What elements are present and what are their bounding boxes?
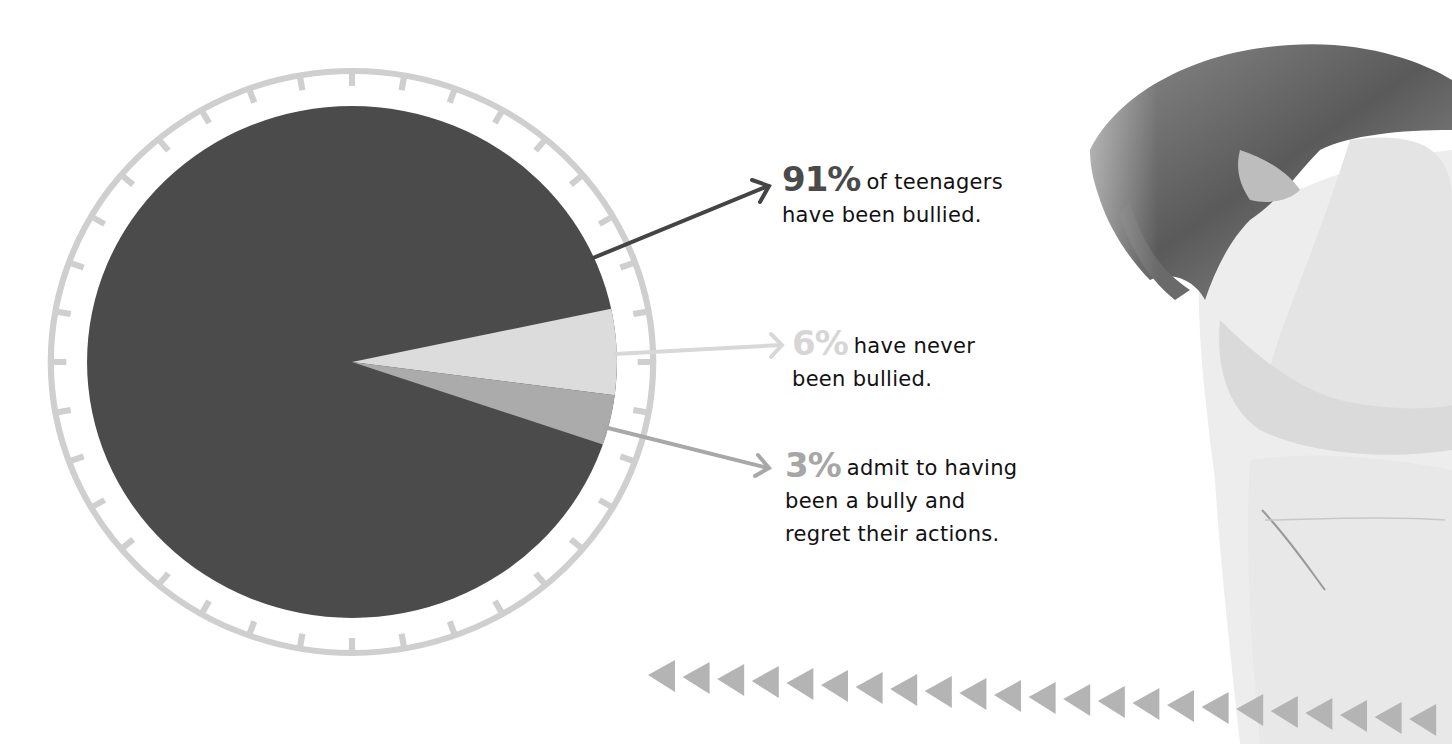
pie-chart [51, 71, 653, 653]
arrow-6 [615, 334, 782, 357]
annotation-3-line2: been a bully and [785, 489, 965, 513]
percent-3: 3% [785, 445, 841, 485]
arrow-3 [604, 427, 769, 476]
annotation-3-line1: admit to having [847, 456, 1018, 480]
annotation-6-line1: have never [854, 334, 975, 358]
annotation-6-line2: been bullied. [792, 367, 932, 391]
distressed-teen-photo [1000, 0, 1452, 744]
annotation-91: 91%of teenagers have been bullied. [782, 163, 1003, 232]
annotation-3: 3%admit to having been a bully and regre… [785, 449, 1017, 551]
arrow-91 [593, 180, 769, 258]
annotation-3-line3: regret their actions. [785, 522, 1000, 546]
annotation-91-line1: of teenagers [866, 170, 1003, 194]
annotation-91-line2: have been bullied. [782, 203, 982, 227]
percent-91: 91% [782, 159, 860, 199]
percent-6: 6% [792, 323, 848, 363]
annotation-6: 6%have never been bullied. [792, 327, 975, 396]
infographic-canvas [0, 0, 1452, 744]
